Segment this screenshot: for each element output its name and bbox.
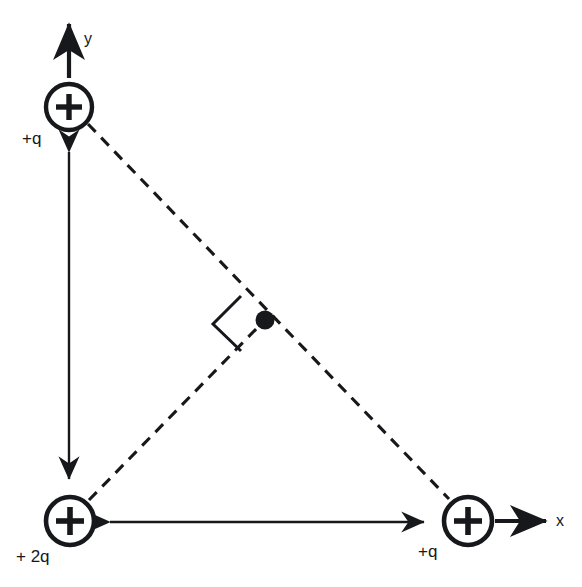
x-axis-label: x: [556, 512, 564, 529]
charge-bottom-left: + 2q: [16, 497, 94, 566]
axis-group: y x: [69, 24, 564, 529]
y-axis-label: y: [84, 30, 92, 47]
charge-bottom-right: +q: [418, 497, 492, 561]
diagram-canvas: y x +q + 2q: [0, 0, 582, 587]
charge-label-bottom-left: + 2q: [16, 547, 50, 566]
right-angle-marker: [213, 296, 241, 351]
charge-top-left: +q: [22, 84, 92, 148]
charge-label-top-left: +q: [22, 129, 41, 148]
charge-label-bottom-right: +q: [418, 542, 437, 561]
field-point-dot: [256, 311, 275, 330]
perpendicular-dashed-line: [89, 323, 262, 500]
physics-charge-diagram: y x +q + 2q: [0, 0, 582, 587]
